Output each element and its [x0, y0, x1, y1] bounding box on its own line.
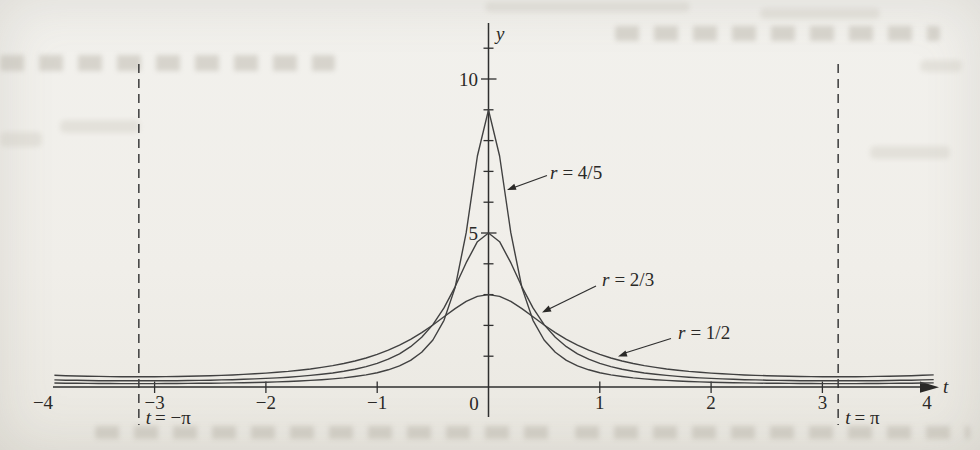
annotation-label: r= 2/3 [602, 269, 654, 290]
annotation-leader-line [549, 286, 596, 309]
annotation-label-var: r [602, 269, 610, 290]
annotation-leader-line [514, 176, 547, 188]
annotation-arrowhead-icon [507, 184, 517, 190]
annotation-leader-line [625, 339, 671, 354]
annotation-r-1-2: r= 1/2 [618, 322, 730, 357]
y-axis-ticks-group: 510 [459, 48, 497, 356]
asymptote-label-eq: = π [854, 407, 879, 428]
curves-group [54, 110, 933, 384]
scanned-textbook-page: t= −πt= π t y −4−3−2−101234 510 r= 4/5 r… [0, 0, 980, 450]
x-tick-label: 2 [706, 392, 716, 413]
x-tick-label: 3 [818, 392, 828, 413]
annotation-label: r= 4/5 [550, 162, 602, 183]
x-tick-label: 0 [469, 393, 479, 414]
annotation-r-4-5: r= 4/5 [507, 162, 602, 190]
poisson-kernel-figure: t= −πt= π t y −4−3−2−101234 510 r= 4/5 r… [0, 0, 980, 450]
x-tick-label: −2 [256, 392, 276, 413]
annotation-label-eq: = 1/2 [690, 322, 730, 343]
asymptote-label-var: t [845, 407, 851, 428]
x-axis-label: t [943, 376, 949, 397]
annotation-arrowhead-icon [618, 351, 628, 357]
x-tick-label: 1 [595, 392, 605, 413]
annotation-label-eq: = 4/5 [562, 162, 602, 183]
x-tick-label: −4 [33, 392, 54, 413]
asymptote-label: t= π [845, 407, 880, 428]
x-tick-label: 4 [922, 392, 932, 413]
annotation-label-var: r [550, 162, 558, 183]
x-tick-label: −3 [144, 392, 164, 413]
y-tick-label: 10 [459, 69, 478, 90]
annotation-label: r= 1/2 [678, 322, 730, 343]
annotation-arrowhead-icon [542, 306, 552, 313]
annotation-r-2-3: r= 2/3 [542, 269, 654, 313]
y-tick-label: 5 [469, 223, 479, 244]
y-axis-label: y [494, 23, 505, 44]
curve-r-2-3 [54, 233, 933, 381]
x-tick-label: −1 [367, 392, 387, 413]
annotation-label-eq: = 2/3 [614, 269, 654, 290]
curve-r-4-5 [54, 110, 933, 384]
annotation-label-var: r [678, 322, 686, 343]
curve-r-1-2 [54, 295, 933, 377]
